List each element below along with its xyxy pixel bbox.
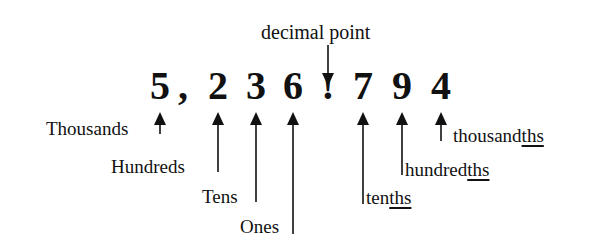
hundreds-arrow-icon [212,112,224,172]
label-thousandths-prefix: thousand [453,125,522,146]
label-hundreds: Hundreds [111,157,185,177]
tens-arrow-icon [250,112,262,202]
label-tenths-suffix: ths [389,187,411,208]
label-hundredths-suffix: ths [467,159,489,180]
label-hundredths-prefix: hundred [405,159,467,180]
label-thousands: Thousands [46,119,128,139]
thousandths-arrow-icon [435,112,447,141]
label-thousandths: thousandths [453,126,544,146]
label-hundredths: hundredths [405,160,489,180]
label-tenths-prefix: ten [366,187,389,208]
thousands-arrow-icon [154,112,166,134]
label-thousandths-suffix: ths [522,125,544,146]
ones-arrow-icon [287,112,299,234]
label-ones: Ones [240,217,279,237]
label-tenths: tenths [366,188,411,208]
label-tens: Tens [202,187,238,207]
decimal-point-arrow-icon [322,45,334,86]
